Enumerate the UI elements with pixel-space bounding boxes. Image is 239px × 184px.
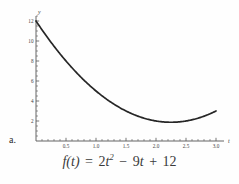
- major-ticks: [36, 21, 216, 141]
- equation-equals: =: [83, 154, 95, 169]
- equation-constant: 12: [163, 154, 177, 169]
- equation-plus-operator: +: [147, 154, 159, 169]
- equation-lhs: f(t): [62, 154, 79, 169]
- tick-label: 1.5: [123, 143, 130, 149]
- tick-label: 8: [31, 58, 34, 64]
- tick-label: 3.0: [213, 143, 220, 149]
- tick-label: 6: [31, 78, 34, 84]
- x-axis-label: t: [228, 138, 230, 144]
- equation-term2-variable: t: [140, 154, 144, 169]
- tick-label: 2.0: [153, 143, 160, 149]
- item-letter-label: a.: [9, 134, 16, 145]
- tick-labels: 0.51.01.52.02.53.024681012: [28, 18, 219, 149]
- tick-label: 2.5: [183, 143, 190, 149]
- equation-caption: f(t) = 2t2 − 9t + 12: [0, 154, 239, 170]
- equation-term1-exponent: 2: [109, 152, 114, 162]
- equation-minus-operator: −: [117, 154, 129, 169]
- y-axis-label: y: [37, 9, 41, 15]
- figure-container: 0.51.01.52.02.53.024681012 y t a. f(t) =…: [0, 0, 239, 184]
- tick-label: 1.0: [93, 143, 100, 149]
- tick-label: 4: [31, 98, 34, 104]
- tick-label: 0.5: [63, 143, 70, 149]
- equation-term2-coefficient: 9: [133, 154, 140, 169]
- tick-label: 12: [28, 18, 34, 24]
- minor-ticks: [36, 16, 210, 141]
- tick-label: 10: [28, 38, 34, 44]
- parabola-curve: [36, 21, 216, 122]
- axes: [36, 16, 224, 141]
- tick-label: 2: [31, 118, 34, 124]
